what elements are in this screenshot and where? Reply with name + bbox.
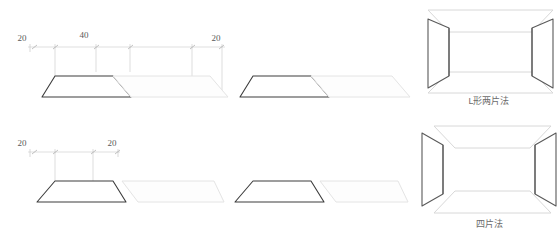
parallelogram-light-piece (122, 181, 224, 202)
diagram-canvas: 20 40 20 L形两片法 (0, 0, 559, 244)
dimension-label-20-right: 20 (108, 138, 118, 148)
dimension-label-40: 40 (80, 30, 90, 40)
left-panel (422, 133, 443, 206)
parallelogram-light-piece (113, 76, 228, 97)
method-label-four-piece: 四片法 (476, 218, 503, 229)
bottom-panel (434, 191, 551, 213)
piece-group-right-top (240, 76, 410, 97)
panel-layout-diagram: 20 40 20 L形两片法 (0, 0, 559, 244)
left-panel (428, 19, 449, 88)
piece-group-left-top (42, 76, 228, 97)
dimension-label-20-left: 20 (18, 33, 28, 43)
parallelogram-light-piece (311, 76, 410, 97)
method-label-l-shape: L形两片法 (468, 95, 509, 106)
dimension-label-20-right: 20 (212, 33, 222, 43)
parallelogram-light-piece (320, 181, 408, 202)
right-panel (532, 19, 553, 88)
top-panel (434, 126, 551, 148)
dimension-label-20-left: 20 (18, 138, 28, 148)
right-panel (535, 133, 556, 206)
